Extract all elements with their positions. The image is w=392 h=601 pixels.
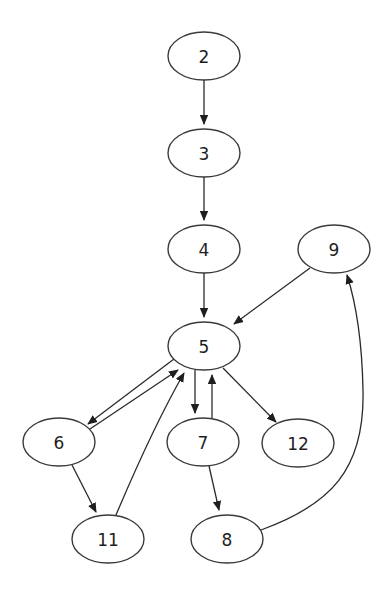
edge-7-to-8 xyxy=(209,466,219,510)
node-6: 6 xyxy=(23,418,95,466)
node-4: 4 xyxy=(168,225,240,273)
edge-6-to-11 xyxy=(72,465,96,512)
node-label: 9 xyxy=(329,240,340,260)
node-label: 12 xyxy=(287,434,309,454)
edge-6-to-5 xyxy=(84,370,178,433)
node-label: 4 xyxy=(199,240,210,260)
node-12: 12 xyxy=(262,419,334,467)
node-2: 2 xyxy=(168,32,240,80)
node-11: 11 xyxy=(72,515,144,563)
node-label: 2 xyxy=(199,47,210,67)
node-8: 8 xyxy=(191,515,263,563)
node-label: 5 xyxy=(199,337,210,357)
node-label: 8 xyxy=(222,530,233,550)
node-label: 11 xyxy=(97,530,119,550)
edge-5-to-12 xyxy=(223,368,276,422)
node-3: 3 xyxy=(168,129,240,177)
graph-canvas: 234956712118 xyxy=(0,0,392,601)
node-5: 5 xyxy=(168,322,240,370)
node-label: 3 xyxy=(199,144,210,164)
node-label: 6 xyxy=(54,433,65,453)
node-9: 9 xyxy=(298,225,370,273)
edge-9-to-5 xyxy=(234,268,310,324)
nodes-layer: 234956712118 xyxy=(23,32,370,563)
node-label: 7 xyxy=(198,433,209,453)
edge-5-to-6 xyxy=(88,359,174,424)
edge-8-to-9 xyxy=(261,275,363,530)
node-7: 7 xyxy=(167,418,239,466)
